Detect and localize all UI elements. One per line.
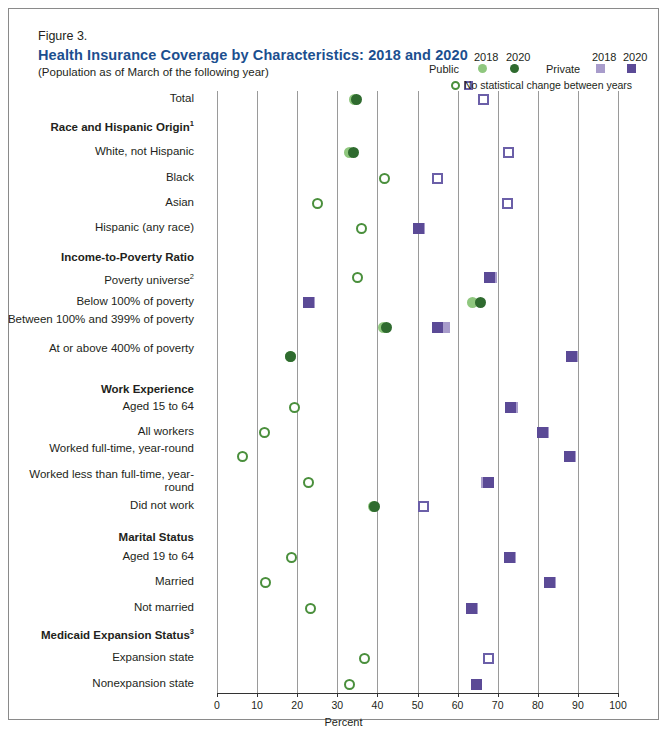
x-tick-label: 20 [291, 699, 303, 711]
public-2020-marker [381, 322, 392, 333]
x-tick-label: 30 [331, 699, 343, 711]
gridline [418, 91, 419, 693]
gridline [337, 91, 338, 693]
gridline [257, 91, 258, 693]
public-marker-nochange [356, 223, 367, 234]
footnote-marker: 3 [190, 627, 194, 636]
private-2020-marker [471, 679, 482, 690]
footnote-marker: 2 [190, 272, 194, 281]
row-label: Asian [4, 196, 194, 209]
row-label: Worked less than full-time, year-round [4, 468, 194, 494]
x-axis-label: Percent [9, 716, 669, 728]
public-marker-nochange [312, 198, 323, 209]
public-marker-nochange [289, 402, 300, 413]
row-label: Nonexpansion state [4, 677, 194, 690]
row-label: Below 100% of poverty [4, 295, 194, 308]
private-2020-marker [564, 451, 575, 462]
row-label: Between 100% and 399% of poverty [4, 313, 194, 326]
x-tick-label: 90 [572, 699, 584, 711]
x-tick-label: 50 [412, 699, 424, 711]
x-tick [418, 693, 419, 697]
x-tick [578, 693, 579, 697]
x-tick [498, 693, 499, 697]
private-2020-marker [303, 297, 314, 308]
gridline [297, 91, 298, 693]
private-marker-nochange [418, 501, 429, 512]
row-label: All workers [4, 425, 194, 438]
public-marker-nochange [305, 603, 316, 614]
public-2020-marker [369, 501, 380, 512]
row-label: Black [4, 171, 194, 184]
x-tick-label: 80 [532, 699, 544, 711]
public-marker-nochange [286, 552, 297, 563]
legend-private-2018-label: 2018 [592, 51, 616, 63]
private-marker-nochange [478, 94, 489, 105]
public-marker-nochange [260, 577, 271, 588]
gridline [578, 91, 579, 693]
footnote-marker: 1 [190, 119, 194, 128]
plot-area [217, 91, 618, 693]
gridline [458, 91, 459, 693]
private-marker-nochange [432, 173, 443, 184]
row-label: Aged 15 to 64 [4, 400, 194, 413]
x-tick [538, 693, 539, 697]
row-label: Poverty universe2 [4, 270, 194, 287]
row-label: Did not work [4, 499, 194, 512]
x-tick [217, 693, 218, 697]
private-2020-marker [466, 603, 477, 614]
x-tick-label: 10 [251, 699, 263, 711]
gridline [217, 91, 218, 693]
group-label: Work Experience [4, 383, 194, 396]
x-tick [257, 693, 258, 697]
legend-private-label: Private [546, 63, 580, 75]
legend-public-2020-swatch [510, 64, 519, 73]
gridline [377, 91, 378, 693]
row-label: Hispanic (any race) [4, 221, 194, 234]
gridline [538, 91, 539, 693]
legend-public-2018-label: 2018 [474, 51, 498, 63]
row-label: Married [4, 575, 194, 588]
public-marker-nochange [303, 477, 314, 488]
legend-nochange-note: No statistical change between years [464, 79, 632, 91]
x-tick [377, 693, 378, 697]
public-2020-marker [351, 94, 362, 105]
legend-public-label: Public [429, 63, 459, 75]
public-2020-marker [285, 351, 296, 362]
group-label: Medicaid Expansion Status3 [4, 625, 194, 642]
row-label: Expansion state [4, 651, 194, 664]
legend-private-2020-swatch [627, 64, 636, 73]
x-tick-label: 100 [609, 699, 627, 711]
legend-public-2018-swatch [478, 64, 487, 73]
private-2020-marker [484, 272, 495, 283]
public-marker-nochange [259, 427, 270, 438]
x-tick-label: 40 [372, 699, 384, 711]
x-tick-label: 0 [214, 699, 220, 711]
public-marker-nochange [237, 451, 248, 462]
public-2020-marker [348, 147, 359, 158]
x-tick [458, 693, 459, 697]
x-tick [297, 693, 298, 697]
row-label: Worked full-time, year-round [4, 442, 194, 455]
private-marker-nochange [503, 147, 514, 158]
figure-label: Figure 3. [38, 29, 87, 43]
legend-private-2020-label: 2020 [623, 51, 647, 63]
public-2020-marker [475, 297, 486, 308]
row-label: White, not Hispanic [4, 145, 194, 158]
private-2020-marker [566, 351, 577, 362]
public-marker-nochange [352, 272, 363, 283]
figure-frame: Figure 3. Health Insurance Coverage by C… [8, 8, 659, 720]
private-2020-marker [544, 577, 555, 588]
public-marker-nochange [359, 653, 370, 664]
legend-public-2020-label: 2020 [506, 51, 530, 63]
figure-title: Health Insurance Coverage by Characteris… [38, 47, 468, 63]
gridline [618, 91, 619, 693]
row-label: At or above 400% of poverty [4, 342, 194, 355]
public-marker-nochange [344, 679, 355, 690]
legend-private-2018-swatch [596, 64, 605, 73]
private-2020-marker [537, 427, 548, 438]
group-label: Marital Status [4, 531, 194, 544]
row-label: Aged 19 to 64 [4, 550, 194, 563]
group-label: Income-to-Poverty Ratio [4, 251, 194, 264]
legend-nochange-dot-icon [451, 81, 460, 90]
x-tick-label: 70 [492, 699, 504, 711]
